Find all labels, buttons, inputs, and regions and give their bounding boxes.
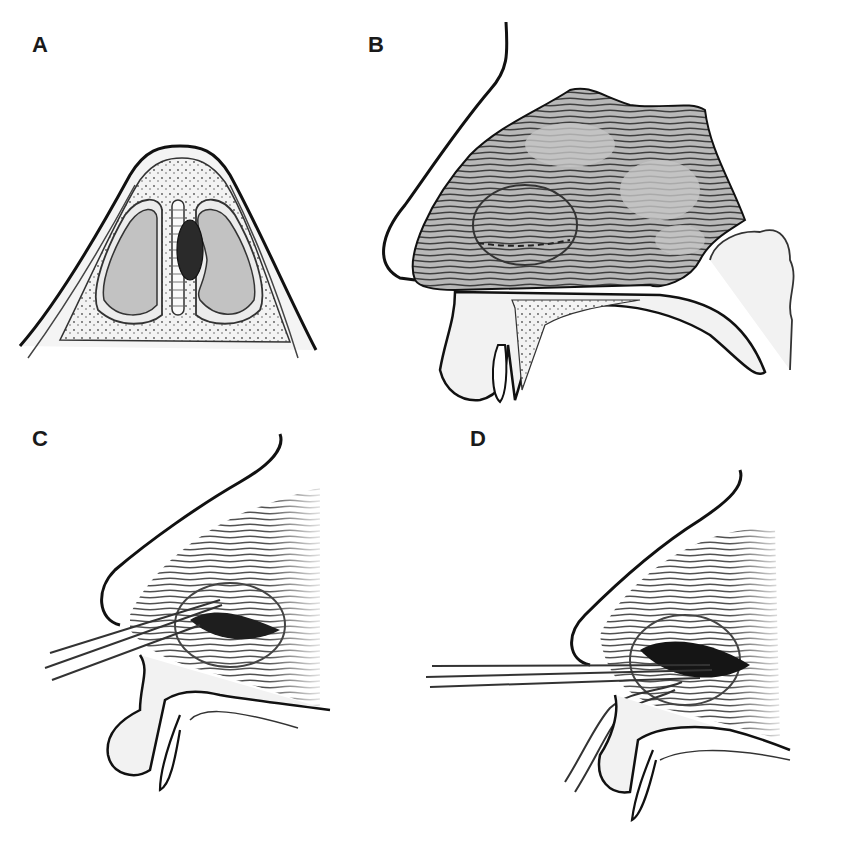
panel-d: D xyxy=(420,420,853,853)
panel-a: A xyxy=(0,0,360,380)
panel-c: C xyxy=(0,420,420,853)
nasal-cross-section-illustration xyxy=(0,0,360,380)
incision-illustration xyxy=(0,420,420,853)
panel-b: B xyxy=(360,0,853,420)
sagittal-mass-illustration xyxy=(360,0,853,420)
drainage-illustration xyxy=(420,420,853,853)
